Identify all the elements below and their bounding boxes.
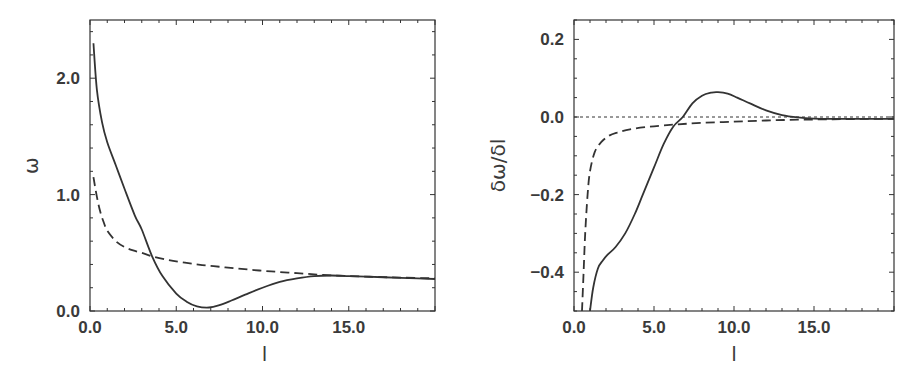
- right-chart-derivative: 0.05.010.015.00.20.0−0.2−0.4lδω/δl: [486, 20, 894, 366]
- y-tick-label: 2.0: [56, 69, 80, 88]
- y-tick-label: −0.4: [530, 263, 564, 282]
- y-tick-label: 0.2: [540, 30, 564, 49]
- solid-curve: [590, 92, 894, 311]
- y-axis-label: δω/δl: [486, 139, 510, 193]
- axis-ticks: [90, 20, 435, 311]
- x-tick-label: 5.0: [642, 318, 666, 337]
- x-axis-label: l: [731, 342, 737, 366]
- plot-frame: [574, 20, 894, 311]
- left-chart-omega: 0.05.010.015.00.01.02.0lω: [19, 20, 435, 366]
- dashed-curve: [93, 177, 435, 278]
- axis-ticks: [574, 20, 894, 311]
- x-tick-label: 15.0: [797, 318, 830, 337]
- y-tick-label: 0.0: [56, 302, 80, 321]
- x-tick-label: 10.0: [717, 318, 750, 337]
- y-tick-label: 0.0: [540, 108, 564, 127]
- x-tick-label: 10.0: [246, 318, 279, 337]
- dashed-curve: [582, 119, 894, 311]
- x-axis-label: l: [262, 342, 268, 366]
- figure: 0.05.010.015.00.01.02.0lω 0.05.010.015.0…: [0, 0, 910, 377]
- x-tick-label: 0.0: [562, 318, 586, 337]
- plot-frame: [90, 20, 435, 311]
- y-tick-label: 1.0: [56, 186, 80, 205]
- y-tick-label: −0.2: [530, 186, 564, 205]
- x-tick-label: 5.0: [164, 318, 188, 337]
- x-tick-label: 0.0: [78, 318, 102, 337]
- solid-curve: [93, 43, 435, 307]
- y-axis-label: ω: [19, 157, 43, 174]
- x-tick-label: 15.0: [332, 318, 365, 337]
